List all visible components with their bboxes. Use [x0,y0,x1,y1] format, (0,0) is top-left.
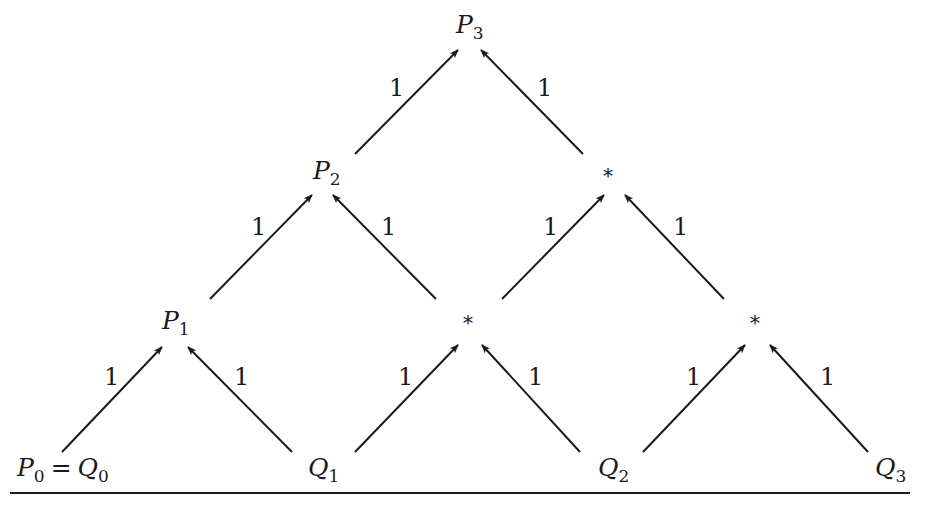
node-q1: Q1 [308,455,339,480]
edge-star-top-to-p3 [481,50,583,154]
node-q2: Q2 [598,455,629,480]
node-p2: P2 [313,158,341,183]
weight-label-q3-starright: 1 [820,365,835,389]
weight-label-starmid-startop: 1 [543,215,558,239]
edge-star-right-to-star-top [625,195,724,299]
node-star-level1-mid: * [463,313,473,333]
edge-p1-to-p2 [210,195,312,299]
node-p3: P3 [456,12,484,37]
diagram-canvas: P3 P2 * P1 * * P0=Q0 Q1 Q2 Q3 1 1 1 1 1 … [0,0,926,509]
edge-q3-to-star-right [770,345,868,452]
weight-label-p1-p2: 1 [251,215,266,239]
edge-star-mid-to-p2 [333,195,436,299]
node-star-level2-right: * [603,166,613,186]
weight-label-q2-starmid: 1 [528,365,543,389]
weight-label-p2-p3: 1 [389,76,404,100]
edge-q2-to-star-mid [482,345,580,452]
weight-label-star-p3: 1 [537,76,552,100]
weight-label-q1-starmid: 1 [398,365,413,389]
node-q3: Q3 [875,455,906,480]
edges-layer [0,0,926,509]
edge-q2-to-star-right [643,345,745,452]
weight-label-q2-starright: 1 [686,365,701,389]
weight-label-starmid-p2: 1 [381,215,396,239]
node-p1: P1 [162,308,190,333]
node-p0-equals-q0: P0=Q0 [17,455,109,480]
weight-label-q1-p1: 1 [234,365,249,389]
weight-label-p0-p1: 1 [104,365,119,389]
weight-label-starright-startop: 1 [673,215,688,239]
edge-star-mid-to-star-top [502,195,604,299]
node-star-level1-right: * [750,313,760,333]
edge-p2-to-p3 [355,50,458,154]
edge-q1-to-star-mid [355,345,458,452]
